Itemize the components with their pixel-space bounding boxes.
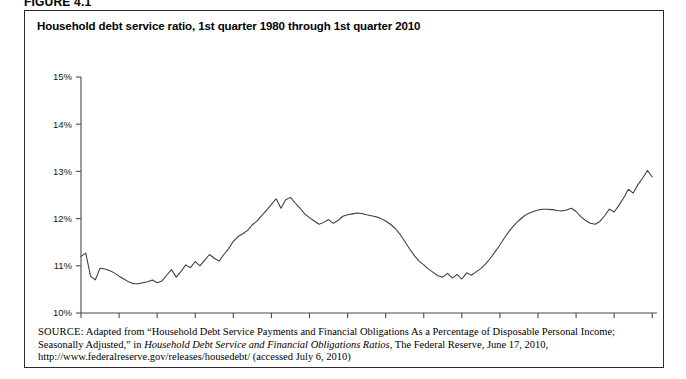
figure-number-label: FIGURE 4.1 (24, 0, 91, 9)
y-tick-label: 15% (53, 71, 73, 82)
x-tick-label: 1986 (185, 320, 206, 321)
x-tick-label: 1984 (147, 320, 168, 321)
chart-plot-area: 10%11%12%13%14%15% 198019821984198619881… (25, 49, 663, 321)
x-tick-label: 2004 (527, 320, 548, 321)
x-tick-label: 1990 (261, 320, 282, 321)
y-axis: 10%11%12%13%14%15% (53, 71, 81, 318)
debt-service-ratio-line (81, 170, 652, 283)
x-tick-label: 1992 (299, 320, 320, 321)
y-tick-label: 14% (53, 119, 73, 130)
x-axis: 1980198219841986198819901992199419961998… (70, 313, 662, 321)
line-chart-svg: 10%11%12%13%14%15% 198019821984198619881… (25, 49, 663, 321)
x-tick-label: 2006 (566, 320, 587, 321)
source-note: SOURCE: Adapted from “Household Debt Ser… (38, 326, 652, 364)
figure-root: FIGURE 4.1 Household debt service ratio,… (0, 0, 686, 379)
source-kicker: SOURCE: (38, 326, 84, 337)
x-tick-label: 1994 (337, 320, 358, 321)
figure-box: Household debt service ratio, 1st quarte… (24, 10, 664, 368)
x-tick-label: 1980 (70, 320, 91, 321)
x-tick-label: 1996 (375, 320, 396, 321)
y-tick-label: 12% (53, 213, 73, 224)
x-tick-label: 2000 (451, 320, 472, 321)
x-tick-label: 1988 (223, 320, 244, 321)
x-tick-label: 2010 (642, 320, 663, 321)
x-tick-label: 1998 (413, 320, 434, 321)
x-tick-label: 2008 (604, 320, 625, 321)
x-tick-label: 2002 (489, 320, 510, 321)
y-tick-label: 11% (54, 260, 73, 271)
data-series-line (81, 170, 652, 283)
source-italic-title: Household Debt Service and Financial Obl… (144, 339, 390, 350)
x-tick-label: 1982 (109, 320, 130, 321)
y-tick-label: 10% (53, 307, 73, 318)
y-tick-label: 13% (53, 166, 73, 177)
chart-title: Household debt service ratio, 1st quarte… (37, 20, 420, 32)
